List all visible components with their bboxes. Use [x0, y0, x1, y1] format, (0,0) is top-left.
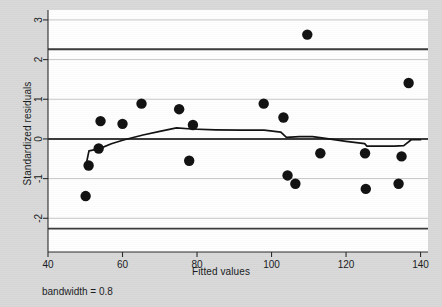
data-point [174, 104, 184, 114]
data-point [361, 184, 371, 194]
data-point [80, 191, 90, 201]
x-axis-label: Fitted values [0, 266, 442, 277]
bandwidth-note: bandwidth = 0.8 [42, 286, 113, 297]
data-point [403, 78, 413, 88]
data-point [136, 98, 146, 108]
plot-canvas: 406080100120140 -2-10123 [0, 0, 442, 307]
data-point [282, 170, 292, 180]
data-point [93, 143, 103, 153]
data-point [184, 156, 194, 166]
y-tick-label: 2 [34, 56, 45, 62]
data-point [393, 179, 403, 189]
y-tick-label: -1 [34, 174, 45, 183]
y-axis-label: Standardized residuals [22, 49, 33, 219]
y-tick-label: -2 [34, 213, 45, 222]
y-tick-label: 3 [34, 17, 45, 23]
y-axis-ticks: -2-10123 [34, 17, 49, 223]
data-point [83, 160, 93, 170]
data-point [259, 98, 269, 108]
residual-plot-figure: 406080100120140 -2-10123 Standardized re… [0, 0, 442, 307]
data-point [290, 179, 300, 189]
data-point [278, 112, 288, 122]
data-point [302, 29, 312, 39]
y-tick-label: 0 [34, 136, 45, 142]
y-tick-label: 1 [34, 96, 45, 102]
data-point [360, 148, 370, 158]
data-point [396, 151, 406, 161]
data-point [188, 120, 198, 130]
data-point [117, 119, 127, 129]
data-point [315, 148, 325, 158]
data-point [95, 116, 105, 126]
